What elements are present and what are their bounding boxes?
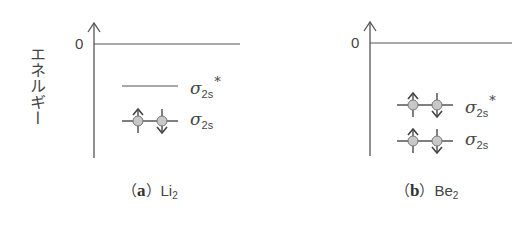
mo-label-sigma2s-star-a: σ2s*: [190, 74, 221, 100]
mo-label-sigma2s-a: σ2s: [190, 109, 213, 131]
level-sigma2s-a-electron-pair: [122, 109, 178, 133]
panel-a-levels: [122, 86, 178, 133]
level-sigma2s-b-electron-pair: [397, 129, 453, 153]
caption-a: （a）Li2: [122, 179, 178, 201]
mo-label-sigma2s-star-b: σ2s*: [465, 93, 496, 119]
mo-label-sigma2s-b: σ2s: [465, 129, 488, 151]
caption-b: （b）Be2: [395, 179, 458, 201]
zero-label-b: 0: [351, 34, 359, 51]
panel-b-levels: [397, 93, 453, 153]
level-sigma2s-star-b-electron-pair: [397, 93, 453, 117]
zero-label-a: 0: [75, 35, 83, 52]
y-axis-label: エネルギー: [28, 46, 46, 126]
